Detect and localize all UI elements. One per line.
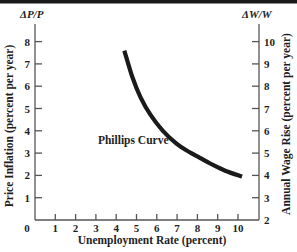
- y-axis-title-right: Annual Wage Rise (percent per year): [280, 33, 293, 215]
- y-tick-label-right: 10: [264, 36, 276, 48]
- y-tick-label-left: 3: [25, 147, 31, 159]
- y-axis-title-left: Price Inflation (percent per year): [3, 45, 16, 208]
- y-tick-label-right: 4: [264, 169, 270, 181]
- x-tick-label: 7: [174, 222, 180, 234]
- y-tick-label-left: 6: [25, 80, 31, 92]
- phillips-curve-line: [124, 51, 242, 177]
- x-tick-label: 10: [233, 222, 245, 234]
- x-tick-label: 0: [24, 222, 30, 234]
- y-tick-label-right: 9: [264, 58, 270, 70]
- curve-label: Phillips Curve: [98, 134, 169, 147]
- x-axis-title: Unemployment Rate (percent): [78, 234, 227, 247]
- y-tick-label-left: 2: [25, 169, 31, 181]
- y-tick-label-right: 8: [264, 80, 270, 92]
- x-tick-label: 2: [73, 222, 79, 234]
- y-tick-label-left: 1: [25, 192, 31, 204]
- x-tick-label: 9: [215, 222, 221, 234]
- y-tick-label-right: 6: [264, 125, 270, 137]
- header-bar: [0, 0, 297, 4]
- y-tick-label-right: 5: [264, 147, 270, 159]
- y-tick-label-right: 2: [264, 214, 270, 226]
- phillips-curve-chart: ΔP/P ΔW/W 012345678910123456782345678910…: [0, 0, 297, 252]
- y-tick-label-left: 7: [25, 58, 31, 70]
- y-tick-label-left: 8: [25, 36, 31, 48]
- axes: [35, 24, 259, 220]
- x-tick-label: 8: [195, 222, 201, 234]
- y-tick-label-right: 7: [264, 103, 270, 115]
- corner-label-right: ΔW/W: [241, 8, 273, 20]
- x-tick-label: 6: [154, 222, 160, 234]
- x-tick-label: 3: [93, 222, 99, 234]
- y-tick-label-left: 4: [25, 125, 31, 137]
- x-tick-label: 1: [53, 222, 59, 234]
- x-tick-label: 4: [113, 222, 119, 234]
- corner-label-left: ΔP/P: [19, 8, 44, 20]
- y-tick-label-right: 3: [264, 192, 270, 204]
- x-tick-label: 5: [134, 222, 140, 234]
- y-tick-label-left: 5: [25, 103, 31, 115]
